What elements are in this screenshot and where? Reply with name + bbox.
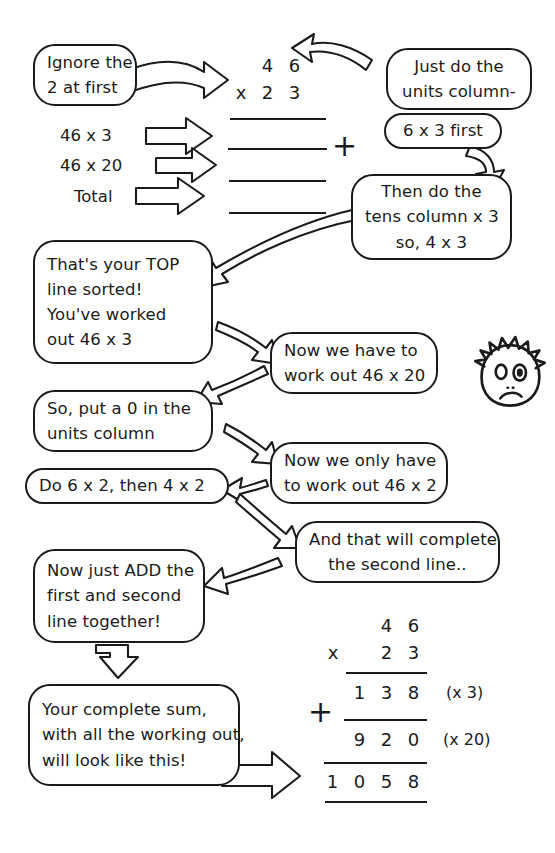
arrow-complete-to-add [204, 558, 282, 594]
arrow-ignore-to-two [128, 62, 228, 98]
final-partial-one-note: (x 3) [446, 683, 483, 702]
bubble-complete-sum-line-1: Your complete sum, [42, 697, 226, 722]
bubble-do-6x2-then-4x2[interactable]: Do 6 x 2, then 4 x 2 [25, 468, 229, 504]
bubble-work-out-46x20[interactable]: Now we have to work out 46 x 20 [270, 332, 438, 394]
final-sum-multiplier-row: x 2 3 [320, 639, 427, 666]
bubble-complete-second-line[interactable]: And that will complete the second line.. [295, 521, 500, 583]
bubble-top-line-sorted-line-1: That's your TOP [47, 252, 199, 277]
step-label-46x3: 46 x 3 [60, 126, 112, 145]
left-eye [496, 365, 507, 379]
final-multiplicand-tens: 4 [373, 615, 400, 636]
frown-mouth [500, 393, 521, 399]
bubble-top-line-sorted-line-4: out 46 x 3 [47, 327, 199, 352]
bubble-put-a-zero-line-1: So, put a 0 in the [47, 396, 199, 421]
bubble-work-out-46x20-line-1: Now we have to [284, 338, 424, 363]
blank-answer-line-1 [230, 118, 326, 120]
arrow-tens-to-topline [200, 210, 356, 288]
final-multiplier-hundreds [346, 642, 373, 663]
right-pupil [517, 369, 523, 377]
bubble-complete-sum[interactable]: Your complete sum, with all the working … [28, 684, 240, 786]
bubble-ignore-2[interactable]: Ignore the 2 at first [33, 44, 137, 106]
top-digit-6: 6 [281, 55, 308, 76]
bubble-tens-column[interactable]: Then do the tens column x 3 so, 4 x 3 [351, 174, 512, 260]
top-problem-multiplicand-row: 4 6 [228, 52, 308, 79]
final-total-d4: 8 [400, 771, 427, 792]
bubble-complete-sum-line-2: with all the working out, [42, 722, 226, 747]
final-partial-one-d3: 8 [400, 682, 427, 703]
final-total-row: 1 0 5 8 [319, 768, 427, 795]
blank-answer-line-2 [228, 148, 327, 150]
spiky-hair [475, 337, 544, 368]
final-total-d2: 0 [346, 771, 373, 792]
final-sum-rule-1 [346, 672, 427, 674]
top-problem-plus-sign: + [332, 128, 357, 163]
arrow-step-46x20 [156, 148, 216, 182]
final-multiplicand-units: 6 [400, 615, 427, 636]
bubble-do-6x2-then-4x2-line-1: Do 6 x 2, then 4 x 2 [39, 473, 215, 498]
arrow-step-total [136, 178, 204, 214]
final-sum-plus-operator: + [308, 694, 333, 729]
arrow-add-to-complete-sum [96, 645, 138, 678]
step-label-46x20: 46 x 20 [60, 156, 122, 175]
bubble-work-out-46x2-line-1: Now we only have [284, 448, 434, 473]
bubble-six-times-three-line-1: 6 x 3 first [398, 118, 488, 143]
final-multiplier-units: 3 [400, 642, 427, 663]
final-multiplicand-hundreds [346, 615, 373, 636]
bubble-tens-column-line-2: tens column x 3 [365, 204, 498, 229]
top-problem: 4 6 x 2 3 [228, 52, 308, 106]
bubble-top-line-sorted-line-2: line sorted! [47, 277, 199, 302]
blank-answer-line-4 [229, 212, 326, 214]
final-partial-one-d2: 3 [373, 682, 400, 703]
bubble-six-times-three[interactable]: 6 x 3 first [384, 113, 502, 149]
bubble-units-column-line-1: Just do the [400, 54, 518, 79]
final-partial-one-d1: 1 [346, 682, 373, 703]
final-partial-one-row: 1 3 8 [320, 679, 427, 706]
bubble-tens-column-line-3: so, 4 x 3 [365, 230, 498, 255]
bubble-work-out-46x2[interactable]: Now we only have to work out 46 x 2 [270, 442, 448, 504]
arrow-step-46x3 [146, 118, 212, 154]
bubble-ignore-2-line-1: Ignore the [47, 50, 123, 75]
bubble-complete-sum-line-3: will look like this! [42, 748, 226, 773]
bubble-tens-column-line-1: Then do the [365, 179, 498, 204]
top-problem-multiplier-row: x 2 3 [228, 79, 308, 106]
top-problem-times-operator: x [228, 82, 254, 103]
arrow-46x2-to-do-6x2 [222, 478, 268, 502]
bubble-now-just-add-line-1: Now just ADD the [47, 558, 191, 583]
final-sum-multiplicand-row: 4 6 [320, 612, 427, 639]
bubble-now-just-add[interactable]: Now just ADD the first and second line t… [33, 549, 205, 643]
worried-spiky-haired-face [470, 325, 550, 415]
bubble-units-column-line-2: units column- [400, 79, 518, 104]
bubble-now-just-add-line-2: first and second [47, 583, 191, 608]
final-partial-two-note: (x 20) [443, 730, 490, 749]
bubble-put-a-zero[interactable]: So, put a 0 in the units column [33, 390, 213, 452]
final-partial-two-d1: 9 [346, 729, 373, 750]
bubble-units-column[interactable]: Just do the units column- [386, 48, 532, 110]
final-sum: 4 6 x 2 3 [320, 612, 427, 666]
final-sum-rule-3 [324, 762, 427, 764]
final-total-d3: 5 [373, 771, 400, 792]
bubble-ignore-2-line-2: 2 at first [47, 75, 123, 100]
bubble-top-line-sorted-line-3: You've worked [47, 302, 199, 327]
final-partial-two-d2: 2 [373, 729, 400, 750]
final-sum-times-operator: x [320, 642, 346, 663]
top-digit-4: 4 [254, 55, 281, 76]
final-sum-rule-2 [344, 719, 427, 721]
final-multiplier-tens: 2 [373, 642, 400, 663]
arrow-topline-to-46x20 [216, 322, 278, 364]
bubble-work-out-46x20-line-2: work out 46 x 20 [284, 363, 424, 388]
bubble-work-out-46x2-line-2: to work out 46 x 2 [284, 473, 434, 498]
bubble-top-line-sorted[interactable]: That's your TOP line sorted! You've work… [33, 240, 213, 364]
bubble-now-just-add-line-3: line together! [47, 609, 191, 634]
top-digit-2: 2 [254, 82, 281, 103]
worksheet-canvas: 4 6 x 2 3 + 46 x 3 46 x 20 Total Ignore … [0, 0, 555, 853]
final-partial-two-d3: 0 [400, 729, 427, 750]
final-sum-rule-4 [325, 801, 427, 803]
bubble-complete-second-line-line-2: the second line.. [309, 552, 486, 577]
step-label-total: Total [74, 187, 113, 206]
final-total-d1: 1 [319, 771, 346, 792]
final-partial-two-row: 9 2 0 [320, 726, 427, 753]
top-digit-3: 3 [281, 82, 308, 103]
bubble-put-a-zero-line-2: units column [47, 421, 199, 446]
bubble-complete-second-line-line-1: And that will complete [309, 527, 486, 552]
blank-answer-line-3 [229, 180, 326, 182]
